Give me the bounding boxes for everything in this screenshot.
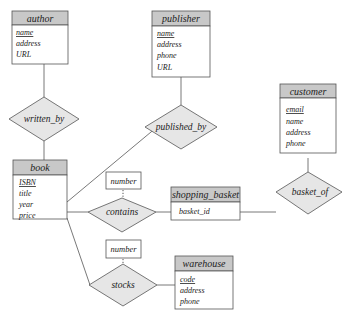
attr-book-title: title [19,189,32,198]
relationship-contains-label: contains [106,207,138,217]
entity-author[interactable]: author name address URL [12,11,68,64]
attr-author-url: URL [16,50,32,59]
relationship-contains[interactable]: contains [88,198,156,232]
entity-warehouse[interactable]: warehouse code address phone [175,256,233,309]
line-published-by-book [67,127,157,202]
relationship-written-by-label: written_by [24,114,65,124]
entity-customer[interactable]: customer email name address phone [280,84,336,153]
relationship-basket-of-label: basket_of [292,187,330,197]
attr-shopping-basket-id: basket_id [179,207,211,216]
entity-shopping-basket-title: shopping_basket [172,189,239,200]
entity-book[interactable]: book ISBN title year price [13,160,67,220]
attr-warehouse-phone: phone [179,297,200,306]
entity-shopping-basket[interactable]: shopping_basket basket_id [171,187,240,220]
attr-publisher-phone: phone [156,51,177,60]
relationship-published-by[interactable]: published_by [145,105,217,149]
entity-book-title: book [30,162,50,173]
attr-warehouse-address: address [180,286,205,295]
attribute-box-stocks-number[interactable]: number [106,240,141,258]
contains-number-label: number [111,176,138,186]
relationship-stocks[interactable]: stocks [89,264,157,306]
attribute-box-contains-number[interactable]: number [106,172,141,189]
entity-customer-title: customer [290,86,327,97]
attr-warehouse-code: code [180,275,196,284]
entity-publisher-title: publisher [161,13,200,24]
attr-customer-email: email [286,105,305,114]
attr-book-year: year [18,200,34,209]
attr-publisher-name: name [157,29,175,38]
attr-book-price: price [18,211,36,220]
attr-customer-name: name [286,117,304,126]
attr-customer-address: address [286,128,311,137]
entity-publisher[interactable]: publisher name address phone URL [152,11,210,77]
relationship-written-by[interactable]: written_by [9,97,79,141]
attr-publisher-address: address [157,40,182,49]
er-diagram: author name address URL publisher name a… [0,0,350,321]
connector-lines [44,64,308,285]
attr-author-name: name [16,28,34,37]
attr-publisher-url: URL [157,63,173,72]
attr-author-address: address [16,39,41,48]
relationship-basket-of[interactable]: basket_of [276,172,342,214]
stocks-number-label: number [111,244,138,254]
relationship-published-by-label: published_by [155,122,207,132]
entity-warehouse-title: warehouse [183,258,227,269]
line-book-stocks [67,218,90,285]
attr-customer-phone: phone [285,139,306,148]
entity-author-title: author [27,13,54,24]
attr-book-isbn: ISBN [18,178,37,187]
relationship-stocks-label: stocks [111,280,135,290]
